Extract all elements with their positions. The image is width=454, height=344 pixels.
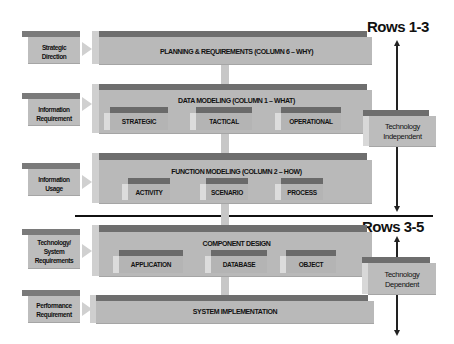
layer-title: COMPONENT DESIGN: [99, 240, 374, 247]
sub-box-process: PROCESS: [275, 178, 323, 200]
sub-box-label: DATABASE: [211, 256, 267, 273]
input-label-line: Information: [28, 105, 80, 114]
input-label-line: Requirement: [28, 310, 80, 319]
input-information-usage: Information Usage: [22, 163, 86, 196]
layer-component-design: COMPONENT DESIGN APPLICATION DATABASE OB…: [92, 225, 374, 277]
sub-box-object: OBJECT: [280, 250, 336, 273]
input-label-line: Strategic: [28, 43, 80, 52]
connector-arrow-2: [221, 133, 229, 153]
layer-title: SYSTEM IMPLEMENTATION: [96, 308, 374, 315]
right-label-line: Dependent: [368, 280, 436, 290]
input-label-line: Usage: [28, 184, 80, 193]
layer-title: PLANNING & REQUIREMENTS (COLUMN 6 – WHY): [99, 48, 374, 55]
sub-box-database: DATABASE: [205, 250, 267, 273]
input-label-line: Technology/: [28, 238, 80, 247]
connector-arrow-1: [221, 64, 229, 84]
sub-box-label: OBJECT: [286, 256, 336, 273]
right-arrow-icon: [82, 244, 92, 258]
layer-data-modeling: DATA MODELING (COLUMN 1 – WHAT) STRATEGI…: [92, 84, 374, 134]
sub-box-scenario: SCENARIO: [200, 178, 248, 200]
right-label-line: Technology: [368, 270, 436, 280]
connector-arrow-3: [221, 203, 229, 225]
layer-system-implementation: SYSTEM IMPLEMENTATION: [90, 295, 374, 324]
arrow-down-icon: [394, 330, 400, 336]
sub-box-label: TACTICAL: [196, 113, 252, 130]
right-arrow-icon: [82, 42, 92, 56]
right-label-line: Independent: [369, 132, 436, 142]
input-label-line: Requirements: [28, 256, 80, 265]
sub-box-operational: OPERATIONAL: [275, 107, 341, 130]
rows-1-3-header: Rows 1-3: [367, 18, 429, 35]
input-label-line: Information: [28, 175, 80, 184]
input-strategic-direction: Strategic Direction: [22, 31, 86, 64]
input-information-requirement: Information Requirement: [22, 93, 86, 126]
layer-planning-requirements: PLANNING & REQUIREMENTS (COLUMN 6 – WHY): [92, 31, 374, 65]
right-label-line: Technology: [369, 122, 436, 132]
sub-box-label: ACTIVITY: [128, 184, 170, 200]
layer-function-modeling: FUNCTION MODELING (COLUMN 2 – HOW) ACTIV…: [92, 153, 374, 204]
input-label-line: Direction: [28, 52, 80, 61]
sub-box-strategic: STRATEGIC: [104, 107, 168, 130]
sub-box-label: SCENARIO: [206, 184, 248, 200]
right-arrow-icon: [82, 175, 92, 189]
input-performance-requirement: Performance Requirement: [22, 290, 86, 323]
right-arrow-icon: [82, 97, 92, 111]
connector-arrow-4: [221, 276, 229, 295]
technology-dependent-box: Technology Dependent: [362, 257, 436, 294]
sub-box-label: PROCESS: [281, 184, 323, 200]
sub-box-application: APPLICATION: [113, 250, 183, 273]
sub-box-label: STRATEGIC: [110, 113, 168, 130]
sub-box-tactical: TACTICAL: [190, 107, 252, 130]
sub-box-activity: ACTIVITY: [122, 178, 170, 200]
layer-title: FUNCTION MODELING (COLUMN 2 – HOW): [99, 168, 374, 175]
technology-independent-box: Technology Independent: [363, 110, 436, 146]
input-technology-system-requirements: Technology/ System Requirements: [22, 229, 86, 269]
sub-box-label: APPLICATION: [119, 256, 183, 273]
input-label-line: Performance: [28, 301, 80, 310]
layer-title: DATA MODELING (COLUMN 1 – WHAT): [99, 97, 374, 104]
row-separator-line: [75, 215, 433, 217]
arrow-down-icon: [394, 206, 400, 212]
input-label-line: System: [28, 247, 80, 256]
sub-box-label: OPERATIONAL: [281, 113, 341, 130]
input-label-line: Requirement: [28, 114, 80, 123]
